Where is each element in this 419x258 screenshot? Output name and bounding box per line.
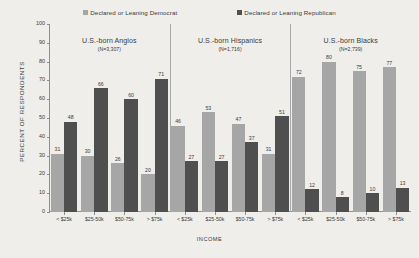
bar-republican: 51 bbox=[275, 116, 288, 212]
x-tick-label: $50-75k bbox=[109, 216, 139, 222]
chart-panel: U.S.-born Blacks(N=2,739)7212< $25k808$2… bbox=[290, 24, 411, 212]
y-tick-label: 100 bbox=[36, 21, 45, 26]
bar-group: 2660$50-75k bbox=[109, 24, 139, 212]
y-tick-label: 20 bbox=[39, 172, 45, 177]
bars: 7713 bbox=[381, 24, 411, 212]
bar-group: 7713> $75k bbox=[381, 24, 411, 212]
x-tick bbox=[124, 212, 125, 215]
bar-democrat: 53 bbox=[202, 112, 215, 212]
bars: 5327 bbox=[200, 24, 230, 212]
y-tick-label: 0 bbox=[42, 209, 45, 214]
bar-democrat: 26 bbox=[111, 163, 124, 212]
chart-panel: U.S.-born Hispanics(N=1,716)4627< $25k53… bbox=[170, 24, 291, 212]
bars: 2071 bbox=[140, 24, 170, 212]
bar-group: 808$25-50k bbox=[321, 24, 351, 212]
bar-republican: 27 bbox=[215, 161, 228, 212]
x-axis-title: INCOME bbox=[0, 236, 419, 242]
y-tick-label: 10 bbox=[39, 190, 45, 195]
legend-item-republican: Declared or Leaning Republican bbox=[237, 9, 335, 16]
bars: 3148 bbox=[49, 24, 79, 212]
x-tick bbox=[336, 212, 337, 215]
bars: 4737 bbox=[230, 24, 260, 212]
bar-groups: 7212< $25k808$25-50k7510$50-75k7713> $75… bbox=[290, 24, 411, 212]
chart-legend: Declared or Leaning Democrat Declared or… bbox=[0, 9, 419, 16]
x-tick-label: $25-50k bbox=[79, 216, 109, 222]
x-tick-label: $25-50k bbox=[321, 216, 351, 222]
bar-group: 3151> $75k bbox=[260, 24, 290, 212]
x-tick bbox=[305, 212, 306, 215]
bar-value-label: 53 bbox=[202, 106, 215, 112]
bar-democrat: 72 bbox=[292, 77, 305, 212]
bar-democrat: 75 bbox=[353, 71, 366, 212]
y-tick-label: 40 bbox=[39, 134, 45, 139]
bar-groups: 3148< $25k3066$25-50k2660$50-75k2071> $7… bbox=[49, 24, 170, 212]
x-tick-label: < $25k bbox=[290, 216, 320, 222]
bar-group: 3148< $25k bbox=[49, 24, 79, 212]
y-tick bbox=[47, 212, 51, 213]
bar-group: 3066$25-50k bbox=[79, 24, 109, 212]
y-tick-label: 50 bbox=[39, 115, 45, 120]
x-tick bbox=[64, 212, 65, 215]
bar-value-label: 71 bbox=[155, 72, 168, 78]
bar-value-label: 20 bbox=[141, 168, 154, 174]
bars: 7510 bbox=[351, 24, 381, 212]
y-axis-title: PERCENT OF RESPONDENTS bbox=[18, 47, 25, 177]
bar-group: 7212< $25k bbox=[290, 24, 320, 212]
legend-label-democrat: Declared or Leaning Democrat bbox=[90, 9, 177, 16]
legend-item-democrat: Declared or Leaning Democrat bbox=[83, 9, 177, 16]
plot-area: 0102030405060708090100 U.S.-born Anglos(… bbox=[49, 24, 411, 212]
x-tick bbox=[155, 212, 156, 215]
bar-democrat: 31 bbox=[51, 154, 64, 212]
bar-value-label: 60 bbox=[124, 93, 137, 99]
bar-value-label: 80 bbox=[322, 55, 335, 61]
bar-democrat: 47 bbox=[232, 124, 245, 212]
y-tick-label: 80 bbox=[39, 59, 45, 64]
bar-group: 7510$50-75k bbox=[351, 24, 381, 212]
bar-group: 4737$50-75k bbox=[230, 24, 260, 212]
bar-group: 5327$25-50k bbox=[200, 24, 230, 212]
x-tick bbox=[275, 212, 276, 215]
x-tick bbox=[94, 212, 95, 215]
bar-value-label: 31 bbox=[262, 147, 275, 153]
bar-republican: 60 bbox=[124, 99, 137, 212]
y-tick-label: 90 bbox=[39, 40, 45, 45]
x-tick bbox=[185, 212, 186, 215]
bar-value-label: 13 bbox=[396, 181, 409, 187]
bar-republican: 12 bbox=[305, 189, 318, 212]
bar-value-label: 51 bbox=[275, 110, 288, 116]
x-tick-label: > $75k bbox=[140, 216, 170, 222]
bar-value-label: 37 bbox=[245, 136, 258, 142]
x-tick-label: > $75k bbox=[260, 216, 290, 222]
bar-republican: 27 bbox=[185, 161, 198, 212]
bars: 4627 bbox=[170, 24, 200, 212]
bar-value-label: 66 bbox=[94, 82, 107, 88]
bars: 2660 bbox=[109, 24, 139, 212]
bar-value-label: 8 bbox=[336, 191, 349, 197]
legend-swatch-republican bbox=[237, 10, 242, 15]
bars: 3066 bbox=[79, 24, 109, 212]
bars: 808 bbox=[321, 24, 351, 212]
bar-group: 4627< $25k bbox=[170, 24, 200, 212]
bar-value-label: 10 bbox=[366, 187, 379, 193]
bar-democrat: 31 bbox=[262, 154, 275, 212]
bar-groups: 4627< $25k5327$25-50k4737$50-75k3151> $7… bbox=[170, 24, 291, 212]
bar-republican: 48 bbox=[64, 122, 77, 212]
legend-label-republican: Declared or Leaning Republican bbox=[244, 9, 335, 16]
x-tick-label: < $25k bbox=[170, 216, 200, 222]
bar-chart: Declared or Leaning Democrat Declared or… bbox=[0, 0, 419, 258]
x-tick bbox=[396, 212, 397, 215]
x-tick bbox=[366, 212, 367, 215]
bar-democrat: 77 bbox=[383, 67, 396, 212]
bars: 7212 bbox=[290, 24, 320, 212]
bar-value-label: 75 bbox=[353, 65, 366, 71]
bar-republican: 66 bbox=[94, 88, 107, 212]
bar-value-label: 31 bbox=[51, 147, 64, 153]
bar-democrat: 80 bbox=[322, 62, 335, 212]
bar-republican: 8 bbox=[336, 197, 349, 212]
bar-republican: 37 bbox=[245, 142, 258, 212]
bar-republican: 71 bbox=[155, 79, 168, 212]
bar-democrat: 30 bbox=[81, 156, 94, 212]
bar-value-label: 46 bbox=[171, 119, 184, 125]
y-tick-label: 60 bbox=[39, 96, 45, 101]
x-tick-label: < $25k bbox=[49, 216, 79, 222]
